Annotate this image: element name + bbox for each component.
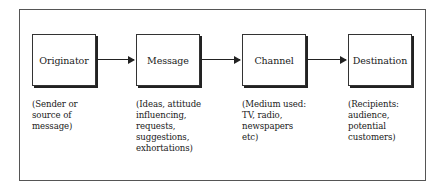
- arrow-channel-to-destination: [308, 59, 346, 60]
- node-destination: Destination: [348, 34, 412, 86]
- channel-description: (Medium used: TV, radio, newspapers etc): [242, 99, 306, 143]
- node-label: Channel: [254, 55, 293, 66]
- node-label: Message: [147, 55, 189, 66]
- node-channel: Channel: [242, 34, 306, 86]
- arrow-message-to-channel: [202, 59, 240, 60]
- message-description: (Ideas, attitude influencing, requests, …: [136, 99, 201, 154]
- originator-description: (Sender or source of message): [32, 99, 78, 132]
- node-label: Originator: [39, 55, 88, 66]
- node-message: Message: [136, 34, 200, 86]
- node-label: Destination: [353, 55, 407, 66]
- arrow-originator-to-message: [97, 59, 134, 60]
- node-originator: Originator: [32, 34, 96, 86]
- destination-description: (Recipients: audience, potential custome…: [348, 99, 399, 143]
